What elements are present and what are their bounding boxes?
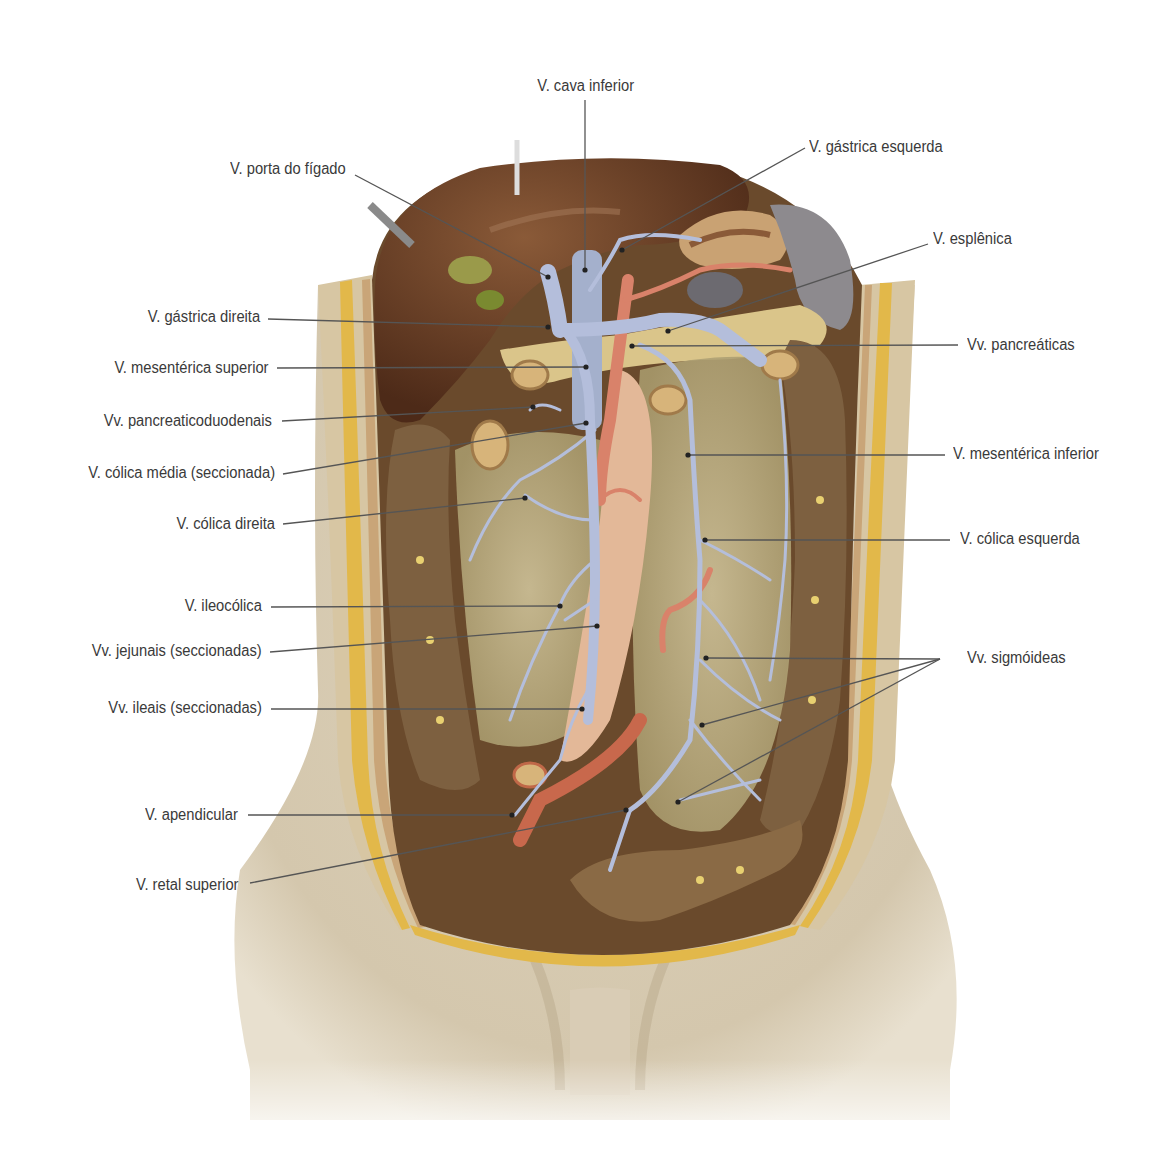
label-pancreaticoduodenais: Vv. pancreaticoduodenais — [104, 412, 272, 430]
label-retal-superior: V. retal superior — [135, 876, 238, 894]
label-sigmoideas: Vv. sigmóideas — [967, 649, 1066, 667]
duodenum-cut — [472, 421, 508, 469]
label-pancreaticas: Vv. pancreáticas — [967, 336, 1075, 354]
anatomy-figure: V. cava inferior V. porta do fígado V. g… — [0, 0, 1170, 1151]
label-mesenterica-superior: V. mesentérica superior — [114, 359, 268, 377]
label-colica-esquerda: V. cólica esquerda — [960, 530, 1080, 548]
label-gastrica-esquerda: V. gástrica esquerda — [809, 138, 943, 156]
label-gastrica-direita: V. gástrica direita — [148, 308, 260, 326]
label-ileais: Vv. ileais (seccionadas) — [108, 699, 262, 717]
label-colica-direita: V. cólica direita — [177, 515, 275, 533]
label-jejunais: Vv. jejunais (seccionadas) — [92, 642, 262, 660]
abdomen-illustration — [0, 0, 1170, 1151]
label-esplenica: V. esplênica — [933, 230, 1012, 248]
label-cava-inferior: V. cava inferior — [537, 77, 634, 95]
label-ileocolica: V. ileocólica — [185, 597, 262, 615]
gallbladder — [448, 256, 492, 284]
label-colica-media: V. cólica média (seccionada) — [88, 464, 275, 482]
jejunum-cut — [650, 386, 686, 414]
label-porta-figado: V. porta do fígado — [230, 160, 346, 178]
label-apendicular: V. apendicular — [145, 806, 238, 824]
label-mesenterica-inferior: V. mesentérica inferior — [953, 445, 1099, 463]
